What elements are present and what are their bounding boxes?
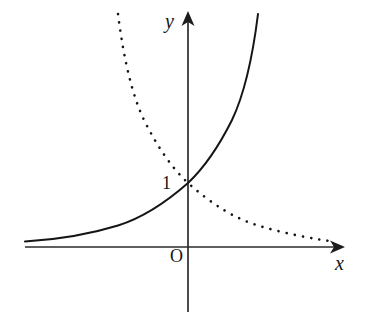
curve-exponential-decay <box>118 14 334 242</box>
curve-exponential-growth <box>25 14 258 242</box>
y-axis <box>182 11 195 312</box>
origin-label: O <box>170 247 183 265</box>
x-axis <box>25 241 345 254</box>
y-tick-label-1: 1 <box>162 174 171 192</box>
y-axis-label: y <box>165 11 174 31</box>
exponential-graph-figure: y x 1 O <box>0 0 365 330</box>
graph-canvas <box>0 0 365 330</box>
x-axis-label: x <box>335 253 344 273</box>
